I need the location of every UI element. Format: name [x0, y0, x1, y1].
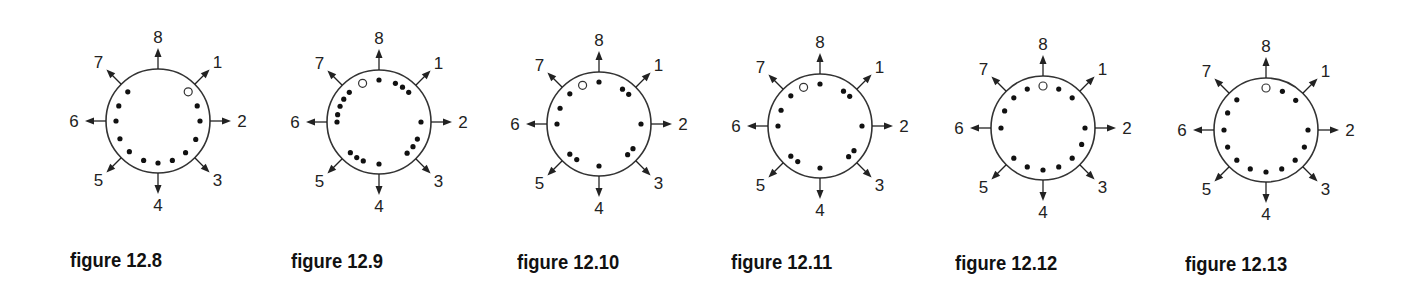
figure-diagram: 12345678	[69, 28, 246, 215]
filled-dot	[1079, 142, 1084, 147]
direction-label-1: 1	[213, 53, 222, 72]
filled-dot	[337, 104, 342, 109]
filled-dot	[376, 77, 381, 82]
filled-dot	[1002, 108, 1007, 113]
filled-dot	[393, 81, 398, 86]
filled-dot	[1040, 167, 1045, 172]
direction-label-1: 1	[1098, 60, 1107, 79]
direction-label-7: 7	[315, 54, 324, 73]
arrowhead-icon	[1263, 57, 1270, 66]
arrowhead-icon	[596, 51, 603, 60]
direction-label-6: 6	[510, 115, 519, 134]
filled-dot	[567, 152, 572, 157]
filled-dot	[1011, 95, 1016, 100]
arrowhead-icon	[663, 121, 672, 128]
direction-label-4: 4	[1038, 203, 1047, 222]
direction-label-6: 6	[731, 117, 740, 136]
direction-label-3: 3	[875, 176, 884, 195]
filled-dot	[155, 160, 160, 165]
filled-dot	[170, 158, 175, 163]
direction-label-3: 3	[434, 172, 443, 191]
direction-label-2: 2	[899, 117, 908, 136]
arrowhead-icon	[817, 53, 824, 62]
filled-dot	[376, 161, 381, 166]
filled-dot	[410, 144, 415, 149]
arrowhead-icon	[596, 188, 603, 197]
filled-dot	[347, 90, 352, 95]
filled-dot	[1279, 166, 1284, 171]
filled-dot	[335, 112, 340, 117]
filled-dot	[195, 103, 200, 108]
arrowhead-icon	[85, 118, 94, 125]
outer-circle	[327, 70, 431, 174]
filled-dot	[557, 106, 562, 111]
filled-dot	[193, 137, 198, 142]
caption-figure-12-8: figure 12.8	[70, 249, 162, 272]
filled-dot	[630, 146, 635, 151]
caption-figure-12-13: figure 12.13	[1185, 253, 1287, 276]
caption-figure-12-12: figure 12.12	[955, 252, 1057, 275]
direction-label-2: 2	[458, 113, 467, 132]
direction-label-7: 7	[756, 58, 765, 77]
filled-dot	[1234, 158, 1239, 163]
filled-dot	[788, 93, 793, 98]
filled-dot	[1221, 127, 1226, 132]
filled-dot	[1225, 144, 1230, 149]
filled-dot	[817, 81, 822, 86]
figure-diagram: 12345678	[731, 33, 908, 220]
figure-diagram: 12345678	[1177, 37, 1354, 224]
figure-diagram: 12345678	[954, 35, 1131, 222]
outer-circle	[547, 72, 651, 176]
filled-dot	[361, 158, 366, 163]
direction-label-2: 2	[1122, 119, 1131, 138]
direction-label-4: 4	[374, 197, 383, 216]
direction-label-3: 3	[654, 174, 663, 193]
filled-dot	[1234, 97, 1239, 102]
direction-label-1: 1	[875, 58, 884, 77]
direction-label-5: 5	[979, 178, 988, 197]
filled-dot	[841, 89, 846, 94]
direction-label-4: 4	[153, 196, 162, 215]
filled-dot	[1293, 158, 1298, 163]
direction-label-8: 8	[815, 33, 824, 52]
filled-dot	[1082, 125, 1087, 130]
filled-dot	[1305, 127, 1310, 132]
arrowhead-icon	[443, 119, 452, 126]
outer-circle	[106, 69, 210, 173]
direction-label-5: 5	[756, 176, 765, 195]
filled-dot	[847, 94, 852, 99]
filled-dot	[1011, 156, 1016, 161]
filled-dot	[596, 79, 601, 84]
direction-label-1: 1	[434, 54, 443, 73]
direction-label-5: 5	[315, 172, 324, 191]
filled-dot	[405, 151, 410, 156]
arrowhead-icon	[306, 119, 315, 126]
filled-dot	[125, 89, 130, 94]
filled-dot	[1025, 86, 1030, 91]
filled-dot	[795, 159, 800, 164]
direction-label-5: 5	[535, 174, 544, 193]
direction-label-2: 2	[1345, 121, 1354, 140]
filled-dot	[334, 119, 339, 124]
filled-dot	[1025, 164, 1030, 169]
direction-label-6: 6	[290, 113, 299, 132]
filled-dot	[1293, 98, 1298, 103]
filled-dot	[998, 125, 1003, 130]
filled-dot	[415, 136, 420, 141]
arrowhead-icon	[1263, 194, 1270, 203]
direction-label-3: 3	[213, 171, 222, 190]
filled-dot	[418, 119, 423, 124]
filled-dot	[817, 165, 822, 170]
direction-label-5: 5	[1202, 180, 1211, 199]
direction-label-7: 7	[979, 60, 988, 79]
filled-dot	[348, 150, 353, 155]
filled-dot	[341, 97, 346, 102]
direction-label-7: 7	[535, 56, 544, 75]
filled-dot	[1248, 166, 1253, 171]
arrowhead-icon	[155, 48, 162, 57]
outer-circle	[768, 74, 872, 178]
filled-dot	[851, 148, 856, 153]
open-circle-marker	[1262, 84, 1270, 92]
arrowhead-icon	[1330, 127, 1339, 134]
filled-dot	[554, 121, 559, 126]
